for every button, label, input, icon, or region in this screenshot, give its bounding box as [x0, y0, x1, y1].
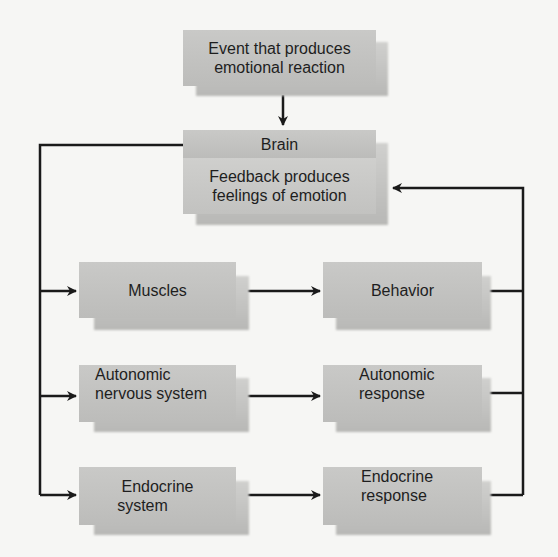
muscles-label: Muscles	[128, 281, 187, 300]
autonomic-response-line2: response	[359, 384, 425, 403]
autonomic-response-line1: Autonomic	[359, 365, 435, 384]
behavior-box: Behavior	[323, 262, 482, 318]
autonomic-ns-line2: nervous system	[95, 384, 207, 403]
autonomic-ns-line1: Autonomic	[95, 365, 171, 384]
event-line2: emotional reaction	[214, 58, 345, 77]
muscles-box: Muscles	[79, 262, 236, 318]
endocrine-response-box: Endocrine response	[323, 467, 482, 525]
brain-line1: Feedback produces	[209, 167, 350, 186]
autonomic-response-box: Autonomic response	[323, 365, 482, 422]
endocrine-system-box: Endocrine system	[79, 467, 236, 525]
autonomic-ns-box: Autonomic nervous system	[79, 365, 236, 422]
brain-title-text: Brain	[261, 135, 298, 154]
brain-title: Brain	[183, 130, 376, 158]
brain-line2: feelings of emotion	[212, 186, 346, 205]
endocrine-response-line2: response	[361, 486, 427, 505]
endocrine-system-line1: Endocrine	[121, 477, 193, 496]
behavior-label: Behavior	[371, 281, 434, 300]
event-box: Event that produces emotional reaction	[183, 30, 376, 86]
endocrine-response-line1: Endocrine	[361, 467, 433, 486]
event-line1: Event that produces	[208, 39, 350, 58]
endocrine-system-line2: system	[117, 496, 168, 515]
brain-feedback: Feedback produces feelings of emotion	[183, 158, 376, 214]
